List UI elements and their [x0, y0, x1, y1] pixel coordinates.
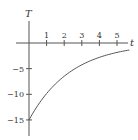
- y-tick-label: −10: [7, 90, 24, 99]
- x-tick-label: 4: [97, 31, 102, 40]
- y-tick-label: −15: [7, 116, 24, 125]
- x-tick-label: 1: [44, 31, 49, 40]
- x-tick-label: 5: [114, 31, 119, 40]
- x-axis-label: t: [130, 37, 135, 48]
- chart: 12345 −5−10−15 T t: [0, 0, 138, 140]
- x-ticks: 12345: [44, 31, 119, 46]
- y-tick-label: −5: [12, 65, 24, 74]
- x-tick-label: 3: [79, 31, 84, 40]
- y-ticks: −5−10−15: [7, 65, 32, 125]
- axes: [16, 21, 128, 136]
- curve-series: [29, 50, 129, 120]
- y-axis-label: T: [25, 8, 33, 19]
- x-tick-label: 2: [62, 31, 67, 40]
